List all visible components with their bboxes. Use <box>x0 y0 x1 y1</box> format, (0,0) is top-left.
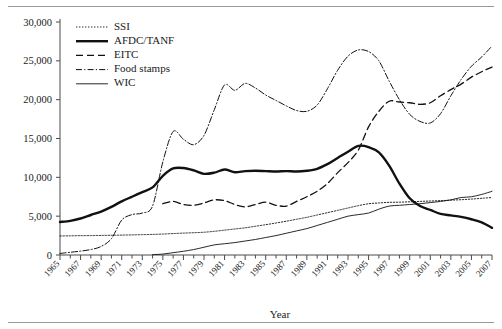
y-tick-label: 10,000 <box>23 172 52 183</box>
x-tick-label: 1973 <box>124 258 144 278</box>
x-tick-label: 1999 <box>392 258 412 278</box>
x-axis: 1965196719691971197319751977197919811983… <box>42 255 494 279</box>
y-tick-label: 30,000 <box>23 17 52 28</box>
y-tick-label: 15,000 <box>23 133 52 144</box>
x-tick-label: 2001 <box>412 259 432 279</box>
x-tick-label: 1983 <box>227 258 247 278</box>
x-tick-label: 1985 <box>248 258 268 278</box>
y-axis: 05,00010,00015,00020,00025,00030,000 <box>23 17 60 261</box>
chart-legend: SSIAFDC/TANFEITCFood stampsWIC <box>76 20 174 89</box>
welfare-program-expenditure-line-chart: 05,00010,00015,00020,00025,00030,000 196… <box>0 0 502 329</box>
x-tick-label: 2007 <box>474 258 494 278</box>
x-tick-label: 1965 <box>42 258 62 278</box>
y-tick-label: 5,000 <box>28 211 52 222</box>
legend-label: Food stamps <box>114 62 170 74</box>
legend-label: EITC <box>114 48 138 60</box>
series-line-afdc-tanf <box>60 146 492 228</box>
x-tick-label: 1997 <box>371 258 391 278</box>
legend-label: AFDC/TANF <box>114 34 174 46</box>
x-tick-label: 1987 <box>268 258 288 278</box>
x-axis-title: Year <box>270 308 291 320</box>
x-tick-label: 1977 <box>165 258 185 278</box>
x-tick-label: 1981 <box>206 259 226 279</box>
x-tick-label: 1993 <box>330 258 350 278</box>
y-tick-label: 25,000 <box>23 55 52 66</box>
x-tick-label: 1975 <box>145 258 165 278</box>
x-tick-label: 2003 <box>433 258 453 278</box>
x-tick-label: 1995 <box>350 258 370 278</box>
y-tick-label: 0 <box>47 250 52 261</box>
x-tick-label: 1991 <box>309 259 329 279</box>
x-tick-label: 1971 <box>104 259 124 279</box>
legend-label: WIC <box>114 76 135 88</box>
x-tick-label: 1969 <box>83 258 103 278</box>
x-tick-label: 1979 <box>186 258 206 278</box>
legend-label: SSI <box>114 20 130 32</box>
x-tick-label: 1989 <box>289 258 309 278</box>
chart-canvas: 05,00010,00015,00020,00025,00030,000 196… <box>0 0 502 329</box>
y-tick-label: 20,000 <box>23 94 52 105</box>
x-tick-label: 1967 <box>62 258 82 278</box>
x-tick-label: 2005 <box>453 258 473 278</box>
